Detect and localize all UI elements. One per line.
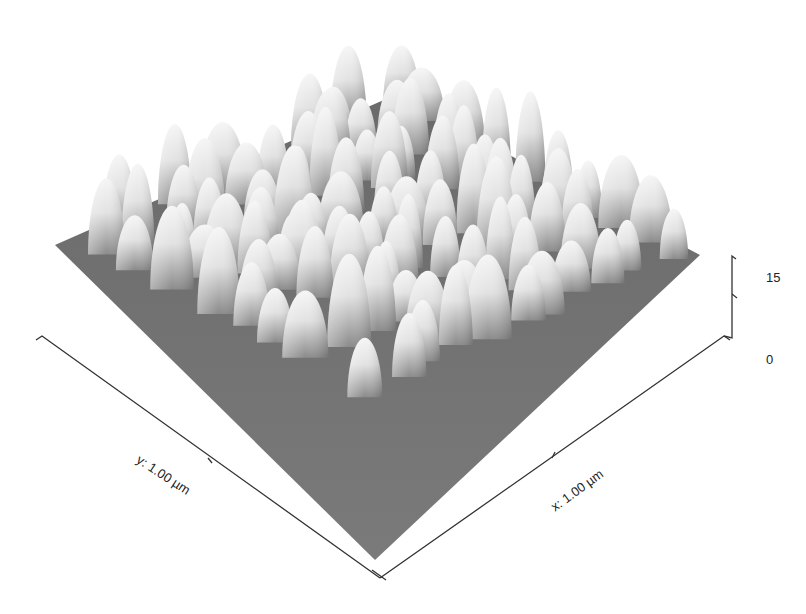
z-tick-15: 15 xyxy=(766,270,780,285)
afm-surface-plot xyxy=(0,0,806,614)
z-axis-line xyxy=(724,256,736,338)
y-axis-tick xyxy=(208,458,212,463)
z-axis-tick xyxy=(732,294,737,298)
z-tick-0: 0 xyxy=(766,352,773,367)
